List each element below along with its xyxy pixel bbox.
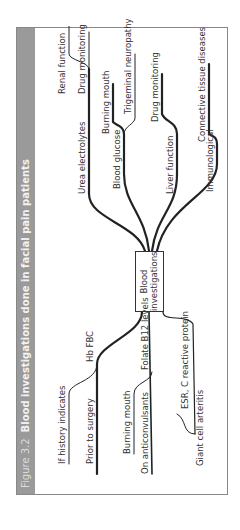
branch-urea-electrolytes: Urea electrolytes bbox=[77, 122, 87, 194]
branch-folate-b12: Folate B12 levels bbox=[140, 297, 150, 370]
branch-blood-glucose: Blood glucose bbox=[112, 130, 122, 189]
leaf-burning-mouth-1: Burning mouth bbox=[122, 391, 132, 454]
leaf-burning-mouth-2: Burning mouth bbox=[101, 71, 111, 134]
leaf-renal-function: Renal function bbox=[57, 33, 67, 94]
branch-esr-crp: ESR, C reactive protein bbox=[180, 311, 190, 409]
leaf-if-history-indicates: If history indicates bbox=[57, 385, 67, 464]
center-label-line2: investigations bbox=[149, 252, 159, 311]
leaf-on-anticonvulsants: On anticonvulsants bbox=[140, 392, 150, 474]
leaf-drug-monitoring-1: Drug monitoring bbox=[77, 24, 87, 94]
branch-hb-fbc: Hb FBC bbox=[85, 331, 95, 362]
leaf-giant-cell-arteritis: Giant cell arteritis bbox=[195, 390, 205, 466]
branch-liver-function: Liver function bbox=[165, 136, 175, 194]
figure-panel: Figure 3.2Blood investigations done in f… bbox=[16, 27, 228, 495]
leaf-connective-tissue-diseases: Connective tissue diseases bbox=[197, 27, 207, 142]
leaf-prior-to-surgery: Prior to surgery bbox=[85, 398, 95, 464]
leaf-trigeminal-neuropathy: Trigeminal neuropathy bbox=[123, 18, 133, 114]
leaf-drug-monitoring-2: Drug monitoring bbox=[150, 52, 160, 122]
